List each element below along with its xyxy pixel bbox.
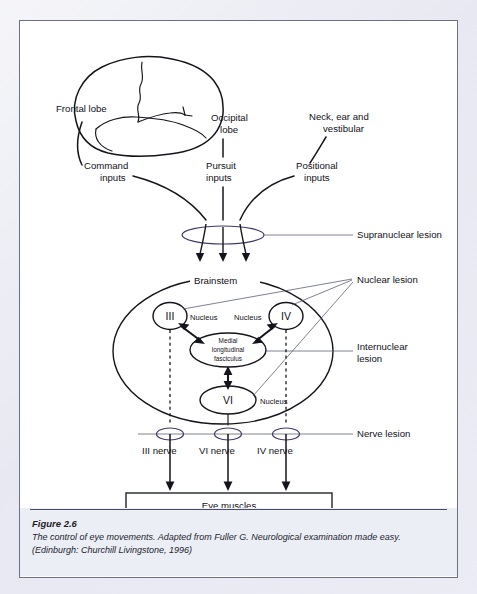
connector-command-to-supranuclear: [133, 176, 206, 220]
label-internuclear-lesion-line1: Internuclear: [357, 341, 408, 352]
label-frontal-lobe: Frontal lobe: [56, 103, 107, 114]
figure-caption-block: Figure 2.6 The control of eye movements.…: [20, 508, 457, 576]
label-positional-inputs-line2: inputs: [304, 172, 330, 183]
label-occipital-lobe-line1: Occipital: [211, 112, 248, 123]
figure-caption-line1: The control of eye movements. Adapted fr…: [32, 531, 442, 544]
figure-panel: Frontal lobe Occipital lobe Neck, ear an…: [19, 20, 458, 578]
label-command-inputs-line2: inputs: [100, 172, 126, 183]
label-supranuclear-lesion: Supranuclear lesion: [357, 229, 442, 240]
label-neck-ear-line1: Neck, ear and: [309, 111, 369, 122]
label-pursuit-inputs-line2: inputs: [206, 172, 232, 183]
nerve-arrows-to-muscles: [166, 434, 291, 491]
nucleus-iv-roman: IV: [281, 310, 291, 322]
page-background: Frontal lobe Occipital lobe Neck, ear an…: [0, 0, 477, 594]
diagram-area: Frontal lobe Occipital lobe Neck, ear an…: [20, 21, 457, 508]
label-nerve-vi: VI nerve: [199, 445, 235, 456]
label-neck-ear-line2: vestibular: [323, 123, 365, 134]
label-nerve-iii: III nerve: [142, 445, 177, 456]
nucleus-iii-label: Nucleus: [190, 313, 218, 322]
connector-positional-to-supranuclear: [240, 176, 294, 220]
label-nuclear-lesion: Nuclear lesion: [357, 274, 418, 285]
label-nerve-iv: IV nerve: [257, 445, 293, 456]
label-command-inputs-line1: Command: [84, 160, 128, 171]
mlf-label-line2: longitudinal: [212, 346, 244, 354]
label-eye-muscles: Eye muscles: [202, 500, 257, 508]
nucleus-iv-label: Nucleus: [234, 313, 262, 322]
label-positional-inputs-line1: Positional: [296, 160, 338, 171]
mlf-label-line1: Medial: [219, 337, 238, 344]
caption-divider: [30, 509, 447, 510]
figure-caption-line2: (Edinburgh: Churchill Livingstone, 1996): [32, 544, 442, 557]
nucleus-vi-label: Nucleus: [260, 397, 288, 406]
label-occipital-lobe-line2: lobe: [220, 124, 238, 135]
label-pursuit-inputs-line1: Pursuit: [206, 160, 236, 171]
mlf-label-line3: fasciculus: [214, 355, 242, 362]
label-nerve-lesion: Nerve lesion: [357, 428, 410, 439]
label-internuclear-lesion-line2: lesion: [357, 353, 382, 364]
label-brainstem: Brainstem: [194, 275, 237, 286]
nucleus-iii-roman: III: [166, 310, 175, 322]
eye-movement-control-diagram: Frontal lobe Occipital lobe Neck, ear an…: [20, 21, 457, 508]
figure-number: Figure 2.6: [32, 517, 445, 530]
nucleus-vi-roman: VI: [223, 394, 233, 406]
